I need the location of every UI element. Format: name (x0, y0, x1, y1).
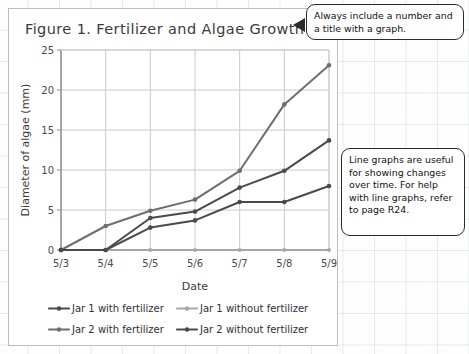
legend-marker (185, 306, 190, 311)
series-data-point (327, 138, 332, 143)
y-tick-label: 5 (48, 205, 54, 216)
series-data-point (148, 225, 153, 230)
series-data-point (327, 184, 332, 189)
callout-linegraph-text: Line graphs are useful for showing chang… (349, 154, 457, 217)
series-data-point (148, 209, 153, 214)
series-data-point (237, 169, 242, 174)
legend-label: Jar 2 without fertilizer (199, 324, 309, 335)
callout-title-note: Always include a number and a title with… (306, 4, 464, 40)
legend-marker (185, 327, 190, 332)
series-data-point (59, 248, 64, 253)
legend-label: Jar 1 without fertilizer (199, 303, 309, 314)
series-data-point (238, 248, 242, 252)
series-data-point (103, 224, 108, 229)
y-tick-label: 15 (41, 125, 54, 136)
legend-item: Jar 1 with fertilizer (49, 303, 165, 314)
y-tick-label: 20 (41, 85, 54, 96)
legend-item: Jar 2 without fertilizer (177, 324, 309, 335)
callout-linegraph-note: Line graphs are useful for showing chang… (341, 148, 465, 236)
series-data-point (103, 248, 108, 253)
y-axis-title: Diameter of algae (mm) (19, 84, 32, 217)
x-axis-title: Date (182, 280, 209, 293)
y-tick-label: 10 (41, 165, 54, 176)
series-data-point (237, 185, 242, 190)
series-data-point (193, 197, 198, 202)
legend-marker (57, 306, 62, 311)
legend-item: Jar 2 with fertilizer (49, 324, 165, 335)
series-data-point (193, 248, 197, 252)
legend-item: Jar 1 without fertilizer (177, 303, 309, 314)
x-tick-labels: 5/35/45/55/65/75/85/9 (53, 258, 337, 269)
series-data-point (148, 216, 153, 221)
series-data-point (282, 169, 287, 174)
chart-area: 0510152025 5/35/45/55/65/75/85/9 Jar 1 w… (9, 9, 339, 347)
x-tick-label: 5/8 (276, 258, 292, 269)
line-chart: 0510152025 5/35/45/55/65/75/85/9 Jar 1 w… (9, 9, 339, 347)
legend-label: Jar 1 with fertilizer (71, 303, 165, 314)
legend-marker (57, 327, 62, 332)
chart-legend: Jar 1 with fertilizerJar 1 without ferti… (49, 303, 309, 335)
callout-title-text: Always include a number and a title with… (314, 10, 456, 35)
x-tick-label: 5/5 (142, 258, 158, 269)
y-tick-label: 25 (41, 45, 54, 56)
series-data-point (193, 218, 198, 223)
x-tick-label: 5/9 (321, 258, 337, 269)
x-tick-label: 5/4 (98, 258, 114, 269)
series-data-point (327, 63, 332, 68)
series-data-point (148, 248, 152, 252)
series-data-point (327, 248, 331, 252)
series-data-point (282, 102, 287, 107)
series-data-point (193, 209, 198, 214)
x-tick-label: 5/7 (232, 258, 248, 269)
callout-pointer-title (293, 18, 305, 32)
legend-label: Jar 2 with fertilizer (71, 324, 165, 335)
y-tick-labels: 0510152025 (41, 45, 61, 256)
figure-card: Figure 1. Fertilizer and Algae Growth 05… (8, 8, 338, 346)
x-tick-label: 5/3 (53, 258, 69, 269)
series-data-point (282, 200, 287, 205)
series-data-point (282, 248, 286, 252)
y-tick-label: 0 (48, 245, 54, 256)
series-data-point (237, 200, 242, 205)
x-tick-label: 5/6 (187, 258, 203, 269)
